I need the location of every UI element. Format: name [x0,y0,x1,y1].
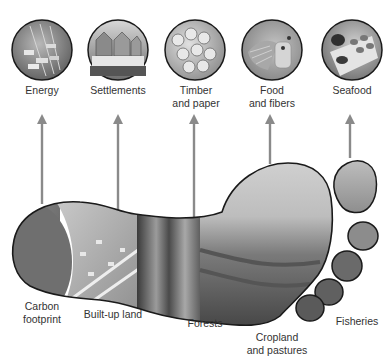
label-energy: Energy [25,84,58,97]
food-fibers-icon [242,20,302,80]
label-food-fibers: Foodand fibers [249,84,295,110]
energy-icon [12,20,72,80]
arrow-up-icon [189,114,199,218]
arrow-up-icon [265,114,275,164]
toe-5 [296,295,324,321]
seafood-platter-icon [322,20,382,80]
label-cropland-pastures: Croplandand pastures [247,331,308,356]
label-builtup-land: Built-up land [84,308,142,321]
arrow-up-icon [345,114,355,158]
toe-2 [348,222,378,250]
arrow-up-icon [113,114,123,210]
houses-icon [88,20,148,80]
label-carbon-footprint: Carbonfootprint [23,300,61,326]
arrow-up-icon [37,114,47,204]
label-settlements: Settlements [90,84,145,97]
label-timber-paper: Timberand paper [172,84,219,110]
label-forests: Forests [187,317,222,330]
toe-big [334,161,377,213]
toe-3 [332,251,362,281]
label-fisheries: Fisheries [336,315,379,328]
label-seafood: Seafood [332,84,371,97]
log-stack-icon [165,20,225,80]
